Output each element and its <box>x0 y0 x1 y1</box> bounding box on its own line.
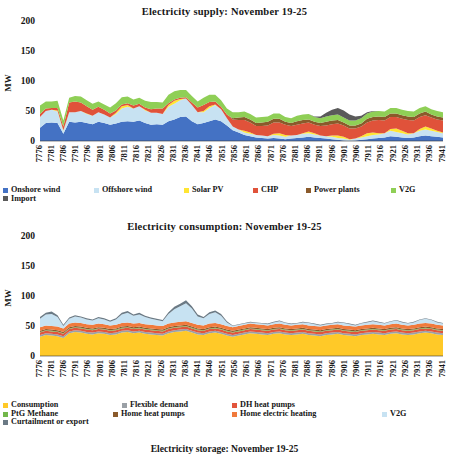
supply-y-tick-label: 150 <box>21 46 36 56</box>
supply-x-tick-label: 7871 <box>266 145 276 162</box>
legend-label: CHP <box>261 186 278 195</box>
supply-x-tick-label: 7826 <box>156 144 166 162</box>
supply-x-tick-label: 7861 <box>241 145 251 162</box>
supply-legend: Onshore windOffshore windSolar PVCHPPowe… <box>0 186 449 203</box>
consumption-x-tick-label: 7916 <box>375 360 385 378</box>
supply-x-tick-label: 7901 <box>339 145 349 162</box>
supply-x-tick-label: 7856 <box>229 144 239 162</box>
consumption-x-tick-label: 7836 <box>180 360 190 378</box>
figure-panel: Electricity supply: November 19-25 05010… <box>0 0 449 463</box>
legend-swatch-icon <box>3 403 8 408</box>
supply-y-tick-label: 0 <box>30 136 35 146</box>
supply-legend-item[interactable]: Power plants <box>306 186 391 195</box>
legend-swatch-icon <box>122 403 127 408</box>
legend-swatch-icon <box>253 188 258 193</box>
consumption-y-tick-label: 0 <box>30 352 35 362</box>
supply-x-tick-label: 7926 <box>400 144 410 162</box>
supply-x-tick-label: 7866 <box>253 144 263 162</box>
consumption-y-tick-label: 150 <box>21 262 36 272</box>
supply-legend-item[interactable]: V2G <box>391 186 433 195</box>
supply-plot-svg: 050100150200MW77767781778677917796780178… <box>0 17 449 185</box>
supply-x-tick-label: 7796 <box>82 144 92 162</box>
supply-legend-item[interactable]: Solar PV <box>184 186 253 195</box>
consumption-x-tick-label: 7866 <box>253 360 263 378</box>
consumption-x-tick-label: 7871 <box>266 360 276 377</box>
legend-label: Home electric heating <box>240 410 316 419</box>
supply-x-tick-label: 7851 <box>217 145 227 162</box>
storage-chart-block: Electricity storage: November 19-25 <box>0 427 449 454</box>
supply-x-tick-label: 7786 <box>58 144 68 162</box>
consumption-y-tick-label: 100 <box>21 292 36 302</box>
consumption-x-tick-label: 7921 <box>388 360 398 377</box>
legend-label: Power plants <box>314 186 360 195</box>
supply-x-tick-label: 7806 <box>107 144 117 162</box>
consumption-legend-item[interactable]: Home electric heating <box>232 410 382 419</box>
consumption-chart-title: Electricity consumption: November 19-25 <box>0 221 449 232</box>
supply-x-tick-label: 7781 <box>46 145 56 162</box>
storage-chart-title: Electricity storage: November 19-25 <box>0 443 449 454</box>
consumption-x-tick-label: 7801 <box>95 360 105 377</box>
consumption-x-tick-label: 7901 <box>339 360 349 377</box>
legend-swatch-icon <box>184 188 189 193</box>
legend-swatch-icon <box>382 412 387 417</box>
legend-swatch-icon <box>3 188 8 193</box>
legend-label: Offshore wind <box>102 186 152 195</box>
consumption-x-tick-label: 7846 <box>204 360 214 378</box>
consumption-x-tick-label: 7941 <box>437 360 447 377</box>
supply-x-tick-label: 7886 <box>302 144 312 162</box>
consumption-x-tick-label: 7806 <box>107 360 117 378</box>
legend-label: Import <box>11 195 36 204</box>
supply-x-tick-label: 7811 <box>119 145 129 162</box>
consumption-legend-item[interactable]: Home heat pumps <box>113 410 232 419</box>
consumption-plot-svg: 050100150200MW77767781778677917796780178… <box>0 232 449 400</box>
consumption-x-tick-label: 7861 <box>241 360 251 377</box>
consumption-x-tick-label: 7821 <box>143 360 153 377</box>
supply-x-tick-label: 7891 <box>314 145 324 162</box>
supply-y-tick-label: 200 <box>21 17 36 26</box>
supply-legend-item[interactable]: CHP <box>253 186 306 195</box>
legend-swatch-icon <box>232 403 237 408</box>
consumption-x-tick-label: 7811 <box>119 360 129 377</box>
consumption-x-tick-label: 7796 <box>82 360 92 378</box>
supply-x-tick-label: 7906 <box>351 144 361 162</box>
legend-swatch-icon <box>3 412 8 417</box>
legend-swatch-icon <box>94 188 99 193</box>
supply-plot-area: 050100150200MW77767781778677917796780178… <box>0 17 449 185</box>
consumption-x-tick-label: 7896 <box>327 360 337 378</box>
consumption-x-tick-label: 7911 <box>363 360 373 377</box>
supply-y-tick-label: 100 <box>21 76 36 86</box>
legend-swatch-icon <box>113 412 118 417</box>
legend-label: Curtailment or export <box>11 418 89 427</box>
supply-x-tick-label: 7821 <box>143 145 153 162</box>
supply-legend-item[interactable]: Offshore wind <box>94 186 184 195</box>
consumption-y-axis-label: MW <box>3 289 13 307</box>
consumption-y-tick-label: 50 <box>26 322 36 332</box>
legend-label: Home heat pumps <box>121 410 185 419</box>
consumption-x-tick-label: 7776 <box>34 360 44 378</box>
consumption-legend-item[interactable]: V2G <box>382 410 442 419</box>
supply-x-tick-label: 7881 <box>290 145 300 162</box>
supply-x-tick-label: 7941 <box>437 145 447 162</box>
supply-x-tick-label: 7921 <box>388 145 398 162</box>
supply-x-tick-label: 7916 <box>375 144 385 162</box>
legend-label: V2G <box>390 410 406 419</box>
legend-swatch-icon <box>306 188 311 193</box>
consumption-x-tick-label: 7831 <box>168 360 178 377</box>
supply-x-tick-label: 7911 <box>363 145 373 162</box>
consumption-x-tick-label: 7876 <box>278 360 288 378</box>
supply-x-tick-label: 7936 <box>424 144 434 162</box>
legend-swatch-icon <box>3 420 8 425</box>
supply-x-tick-label: 7876 <box>278 144 288 162</box>
supply-x-tick-label: 7831 <box>168 145 178 162</box>
supply-chart-title: Electricity supply: November 19-25 <box>0 6 449 17</box>
consumption-x-tick-label: 7891 <box>314 360 324 377</box>
supply-x-tick-label: 7846 <box>204 144 214 162</box>
supply-y-tick-label: 50 <box>26 106 36 116</box>
consumption-x-tick-label: 7936 <box>424 360 434 378</box>
supply-y-axis-label: MW <box>3 74 13 92</box>
consumption-legend: ConsumptionFlexible demandDH heat pumpsP… <box>0 401 449 427</box>
consumption-x-tick-label: 7881 <box>290 360 300 377</box>
supply-legend-item[interactable]: Import <box>3 195 59 204</box>
consumption-legend-item[interactable]: Curtailment or export <box>3 418 118 427</box>
consumption-chart-block: Electricity consumption: November 19-25 … <box>0 203 449 427</box>
